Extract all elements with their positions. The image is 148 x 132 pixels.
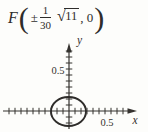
- x-axis-arrow-icon: [128, 108, 138, 113]
- figure: F ( ± 1 30 √ 11 , 0 ): [0, 0, 148, 132]
- x-axis-label: x: [132, 114, 139, 126]
- x-tick-label: 0.5: [100, 117, 113, 128]
- y-tick-label: 0.5: [51, 65, 64, 76]
- coordinate-plane: 0.5 0.5 y x: [0, 0, 148, 132]
- y-axis-label: y: [76, 34, 83, 47]
